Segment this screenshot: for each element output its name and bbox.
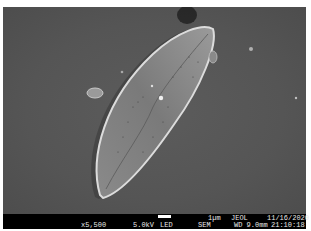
mode-label: SEM xyxy=(198,222,211,229)
sem-micrograph xyxy=(3,7,306,214)
voltage-label: 5.0kV xyxy=(133,222,154,229)
time-label: 21:10:18 xyxy=(271,222,305,229)
magnification-label: x5,500 xyxy=(81,222,106,229)
scale-bar xyxy=(158,215,171,218)
sem-data-bar: 1µm JEOL 11/16/2020 x5,500 5.0kV LED SEM… xyxy=(3,214,306,229)
sem-image-frame: 1µm JEOL 11/16/2020 x5,500 5.0kV LED SEM… xyxy=(3,7,306,229)
working-distance-label: WD 9.0mm xyxy=(234,222,268,229)
detector-label: LED xyxy=(160,222,173,229)
diatom-illustration xyxy=(3,7,306,214)
